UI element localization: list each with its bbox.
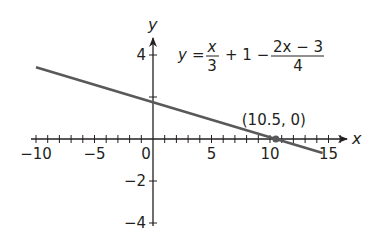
- x-tick-label: 5: [207, 145, 217, 163]
- intercept-label: (10.5, 0): [242, 111, 306, 129]
- x-axis: −10−5051015 x: [20, 129, 362, 163]
- frac2-denominator: 4: [293, 57, 303, 75]
- y-tick-label: −2: [124, 172, 146, 190]
- intercept-point: [272, 136, 279, 143]
- x-axis-tick-labels: −10−5051015: [20, 145, 338, 163]
- equation-middle: + 1 −: [225, 46, 269, 64]
- x-tick-label: 10: [260, 145, 279, 163]
- y-tick-label: 4: [136, 46, 146, 64]
- equation-equals: =: [192, 46, 205, 64]
- y-axis: 4−2−4 y: [124, 15, 158, 232]
- equation-lhs: y: [177, 46, 188, 64]
- x-axis-label: x: [351, 129, 362, 148]
- y-tick-label: −4: [124, 214, 146, 232]
- x-tick-label: −5: [83, 145, 105, 163]
- chart-canvas: −10−5051015 x 4−2−4 y (10.5, 0) y = x 3 …: [0, 0, 372, 247]
- intercept-annotation: (10.5, 0): [242, 111, 306, 143]
- frac1-numerator: x: [207, 38, 217, 56]
- equation-label: y = x 3 + 1 − 2x − 3 4: [177, 38, 324, 75]
- frac1-denominator: 3: [207, 57, 217, 75]
- y-axis-label: y: [147, 15, 158, 34]
- x-tick-label: 0: [141, 145, 151, 163]
- x-tick-label: −10: [20, 145, 52, 163]
- frac2-numerator: 2x − 3: [273, 38, 323, 56]
